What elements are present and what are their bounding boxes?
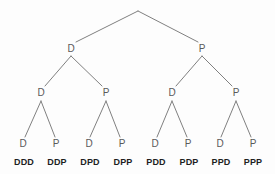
tree-leaf-0: D	[13, 139, 33, 149]
tree-node-level2-3: P	[226, 88, 246, 98]
outcome-label-7: PPP	[233, 158, 273, 167]
tree-leaf-2: D	[79, 139, 99, 149]
tree-edge	[76, 11, 138, 42]
tree-leaf-7: P	[243, 139, 263, 149]
tree-edge	[106, 101, 120, 137]
tree-leaf-6: D	[210, 139, 230, 149]
tree-leaf-3: P	[112, 139, 132, 149]
tree-leaf-5: P	[178, 139, 198, 149]
tree-node-level2-0: D	[31, 88, 51, 98]
tree-node-level2-1: P	[96, 88, 116, 98]
tree-edge	[90, 101, 106, 137]
tree-leaf-4: D	[145, 139, 165, 149]
tree-edge	[172, 101, 187, 137]
tree-edge	[71, 56, 102, 86]
tree-node-level1-1: P	[192, 44, 212, 54]
tree-edge	[236, 101, 251, 137]
tree-edge	[41, 101, 55, 137]
tree-edge	[157, 101, 172, 137]
tree-edge	[45, 56, 71, 86]
tree-edge	[221, 101, 236, 137]
tree-edge	[202, 56, 232, 86]
tree-edge	[25, 101, 41, 137]
probability-tree-diagram: DPDPDPDPDPDPDPDDDDDPDPDDPPPDDPDPPPDPPP	[0, 0, 275, 174]
tree-node-level2-2: D	[162, 88, 182, 98]
tree-leaf-1: P	[46, 139, 66, 149]
tree-edge	[176, 56, 202, 86]
tree-node-level1-0: D	[61, 44, 81, 54]
tree-edge	[138, 11, 198, 42]
